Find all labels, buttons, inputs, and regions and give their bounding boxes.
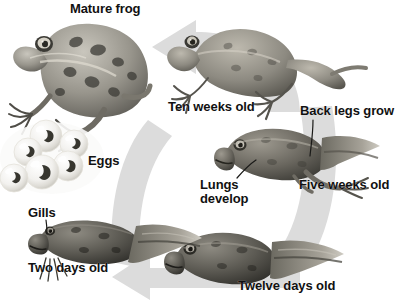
label-five-weeks-old: Five weeks old (299, 178, 389, 192)
label-gills: Gills (28, 206, 56, 220)
label-lungs-develop: Lungs develop (200, 178, 248, 206)
label-two-days-old: Two days old (28, 261, 108, 275)
life-cycle-illustrations (0, 0, 401, 300)
frog-life-cycle-diagram: Mature frog Ten weeks old Back legs grow… (0, 0, 401, 300)
label-twelve-days-old: Twelve days old (238, 279, 335, 293)
label-eggs: Eggs (88, 154, 119, 168)
label-mature-frog: Mature frog (70, 2, 140, 16)
label-back-legs-grow: Back legs grow (300, 104, 394, 118)
label-ten-weeks-old: Ten weeks old (168, 100, 255, 114)
